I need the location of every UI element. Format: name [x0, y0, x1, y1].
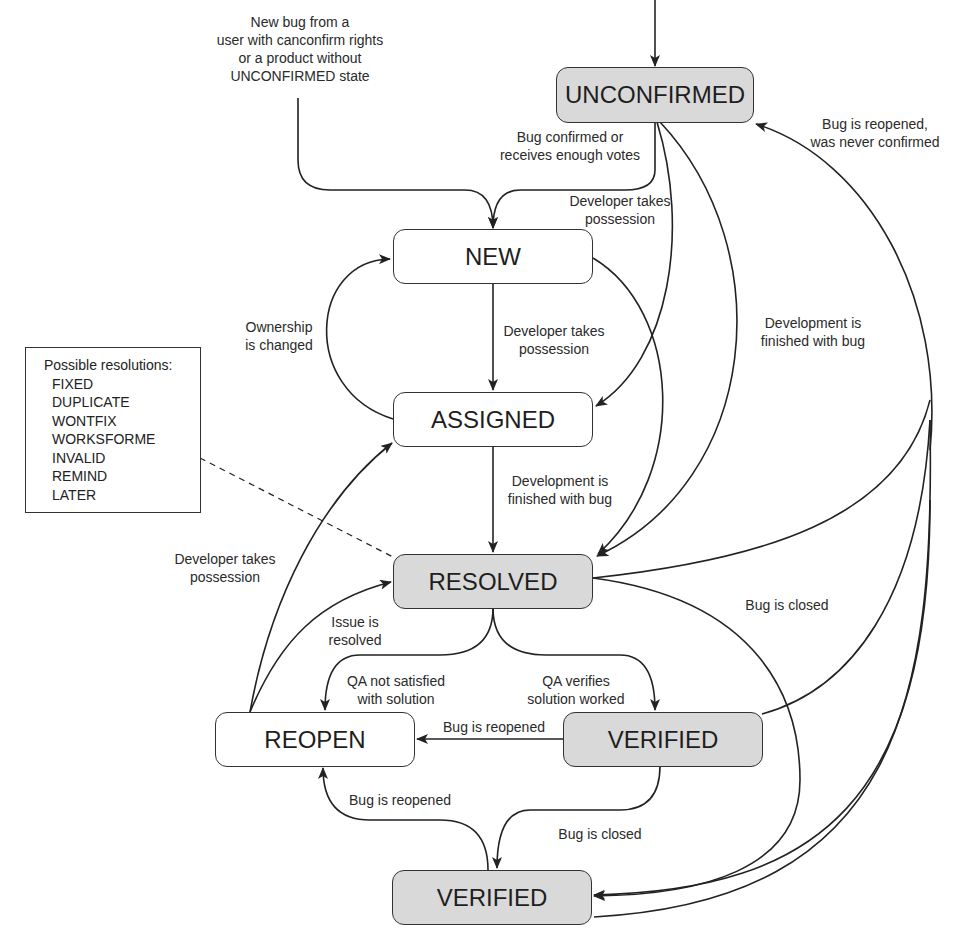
- state-resolved: RESOLVED: [393, 554, 593, 609]
- label-verified-reopen: Bug is reopened: [434, 718, 554, 736]
- label-new-assigned: Developer takes possession: [498, 322, 610, 358]
- resolutions-note: Possible resolutions: FIXED DUPLICATE WO…: [25, 347, 201, 513]
- edge-new-resolved: [593, 258, 663, 554]
- edge-reopened-never-confirmed: [756, 124, 932, 450]
- state-assigned: ASSIGNED: [393, 392, 593, 447]
- resolution-item: LATER: [52, 486, 200, 505]
- resolutions-title: Possible resolutions:: [44, 356, 200, 375]
- edge-verified-right: [762, 420, 930, 714]
- edge-verified-closed: [497, 766, 660, 868]
- label-unconfirmed-new: Bug confirmed or receives enough votes: [490, 128, 650, 164]
- resolution-item: WORKSFORME: [52, 430, 200, 449]
- label-reopen-resolved: Issue is resolved: [320, 613, 390, 649]
- label-entry-new: New bug from a user with canconfirm righ…: [195, 13, 405, 85]
- edge-entry-new: [298, 98, 493, 228]
- label-resolved-reopen: QA not satisfied with solution: [338, 672, 454, 708]
- label-unconfirmed-assigned: Developer takes possession: [560, 192, 680, 228]
- state-verified: VERIFIED: [563, 712, 763, 767]
- label-assigned-resolved: Development is finished with bug: [496, 472, 624, 508]
- label-verified-closed: Bug is closed: [550, 825, 650, 843]
- label-closed-unconfirmed: Bug is reopened, was never confirmed: [790, 115, 957, 151]
- resolution-item: WONTFIX: [52, 412, 200, 431]
- edge-closed-reopen: [323, 768, 488, 870]
- resolution-item: INVALID: [52, 449, 200, 468]
- state-verified-final: VERIFIED: [392, 870, 592, 925]
- state-new: NEW: [393, 229, 593, 284]
- label-resolved-closed: Bug is closed: [732, 596, 842, 614]
- resolution-item: REMIND: [52, 467, 200, 486]
- edge-unconfirmed-assigned: [596, 122, 672, 406]
- label-unconfirmed-resolved: Development is finished with bug: [748, 314, 878, 350]
- edge-ownership-changed: [327, 259, 393, 419]
- edge-resolutions-note: [200, 458, 393, 557]
- resolution-item: DUPLICATE: [52, 393, 200, 412]
- state-reopen: REOPEN: [215, 712, 415, 767]
- label-resolved-verified: QA verifies solution worked: [516, 672, 636, 708]
- label-closed-reopen: Bug is reopened: [340, 791, 460, 809]
- label-ownership-changed: Ownership is changed: [238, 318, 320, 354]
- label-reopen-assigned: Developer takes possession: [170, 550, 280, 586]
- state-unconfirmed: UNCONFIRMED: [556, 67, 754, 123]
- resolution-item: FIXED: [52, 375, 200, 394]
